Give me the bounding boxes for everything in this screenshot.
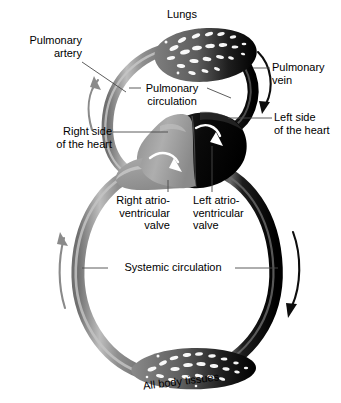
- systemic-venous-flow-arrow: [57, 232, 68, 308]
- heart-right-side: [116, 114, 196, 190]
- label-pulmonary-artery: Pulmonary artery: [6, 34, 82, 59]
- label-right-side-of-heart: Right side of the heart: [8, 125, 112, 150]
- label-pulmonary-vein: Pulmonary vein: [272, 61, 340, 86]
- label-left-side-of-heart: Left side of the heart: [274, 111, 340, 136]
- label-pulmonary-circulation: Pulmonary circulation: [137, 82, 207, 107]
- pulmonary-vein-flow-arrow: [258, 52, 271, 114]
- pulmonary-artery-flow-arrow: [89, 76, 101, 130]
- label-lungs: Lungs: [152, 8, 212, 21]
- diagram-canvas: Lungs Pulmonary artery Pulmonary vein Pu…: [0, 0, 341, 403]
- label-left-av-valve: Left atrio- ventricular valve: [193, 194, 255, 232]
- label-right-av-valve: Right atrio- ventricular valve: [108, 194, 170, 232]
- lungs-capillary-bed: [155, 26, 257, 82]
- systemic-arterial-flow-arrow: [286, 232, 299, 318]
- label-systemic-circulation: Systemic circulation: [111, 261, 235, 274]
